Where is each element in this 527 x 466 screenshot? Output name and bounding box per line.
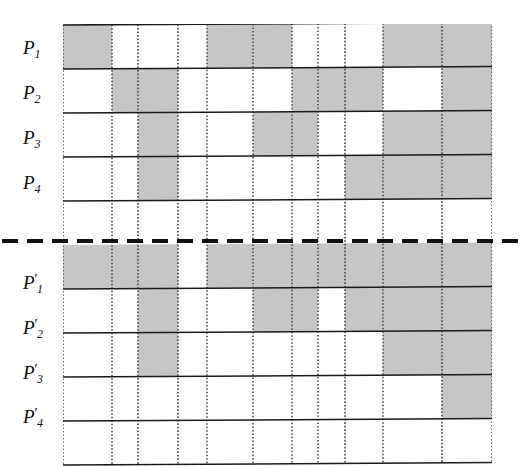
- grid-cell-shaded-r2-c3: [138, 68, 178, 112]
- grid-cell-shaded-r2-c9: [345, 67, 383, 111]
- row-label-p3-prime: P′3: [23, 362, 43, 385]
- group-divider-dashed-line: [0, 236, 527, 246]
- grid-cell-shaded-r6-c7: [292, 244, 318, 288]
- row-label-p2-prime: P′2: [23, 317, 43, 340]
- grid-cell-shaded-r1-c10: [383, 24, 442, 67]
- row-label-p3-subscript: 3: [35, 137, 41, 151]
- row-label-p4-base: P: [23, 172, 35, 193]
- row-label-p4-prime: P′4: [23, 406, 43, 429]
- grid-cell-shaded-r1-c5: [207, 24, 253, 68]
- grid-cell-shaded-r9-c11: [442, 375, 492, 419]
- grid-cell-shaded-r7-c7: [292, 288, 318, 332]
- grid-cell-shaded-r2-c8: [318, 67, 345, 111]
- grid-cell-shaded-r6-c5: [207, 244, 253, 288]
- grid-cell-shaded-r1-c6: [253, 24, 292, 68]
- row-label-p2-prime-base: P: [23, 317, 35, 338]
- row-label-p3: P3: [23, 128, 41, 150]
- grid-cell-shaded-r3-c7: [292, 112, 318, 156]
- grid-cell-shaded-r6-c9: [345, 243, 383, 287]
- row-label-p3-prime-base: P: [23, 362, 35, 383]
- row-label-p1-prime: P′1: [23, 272, 43, 295]
- grid-cell-shaded-r7-c10: [383, 287, 442, 331]
- grid-cell-shaded-r6-c3: [138, 244, 178, 288]
- grid-cell-shaded-r7-c11: [442, 287, 492, 331]
- row-label-p1-base: P: [23, 37, 35, 58]
- row-label-p1: P1: [23, 38, 41, 60]
- grid-row-rule-8: [63, 375, 492, 378]
- grid-row-rule-9: [63, 419, 492, 422]
- row-label-p2-prime-subscript: 2: [37, 327, 43, 341]
- grid-cell-shaded-r3-c3: [138, 112, 178, 156]
- grid-cell-shaded-r6-c1: [63, 245, 112, 289]
- row-label-p2: P2: [23, 83, 41, 105]
- grid-cell-shaded-r1-c1: [63, 25, 112, 69]
- grid-cell-shaded-r7-c6: [253, 288, 292, 332]
- grid-cell-shaded-r6-c2: [112, 245, 138, 289]
- grid-cell-shaded-r4-c9: [345, 155, 383, 199]
- grid-cell-shaded-r6-c6: [253, 244, 292, 288]
- row-label-p2-base: P: [23, 82, 35, 103]
- grid-cell-shaded-r3-c6: [253, 112, 292, 156]
- grid-row-rule-4: [63, 199, 492, 202]
- grid-cell-shaded-r3-c11: [442, 111, 492, 155]
- grid-cell-shaded-r2-c2: [112, 69, 138, 113]
- row-label-p3-base: P: [23, 127, 35, 148]
- row-label-p4-prime-base: P: [23, 406, 35, 427]
- grid-cell-shaded-r7-c9: [345, 287, 383, 331]
- grid-cell-shaded-r2-c7: [292, 68, 318, 112]
- row-label-p4-subscript: 4: [35, 182, 41, 196]
- grid-cell-shaded-r6-c11: [442, 243, 492, 287]
- grid-cell-shaded-r8-c3: [138, 332, 178, 376]
- row-label-p1-prime-subscript: 1: [37, 282, 43, 296]
- row-label-p4-prime-subscript: 4: [37, 416, 43, 430]
- grid-cell-shaded-r4-c10: [383, 155, 442, 199]
- grid-row-rule-10: [63, 463, 492, 466]
- row-label-p1-prime-base: P: [23, 272, 35, 293]
- row-label-p3-prime-subscript: 3: [37, 372, 43, 386]
- grid-cell-shaded-r7-c3: [138, 288, 178, 332]
- grid-cell-shaded-r6-c10: [383, 243, 442, 287]
- row-label-p4: P4: [23, 173, 41, 195]
- grid-cell-shaded-r4-c11: [442, 155, 492, 199]
- grid-cell-shaded-r8-c11: [442, 331, 492, 375]
- grid-cell-shaded-r6-c8: [318, 243, 345, 287]
- grid-cell-shaded-r8-c10: [383, 331, 442, 375]
- row-label-p2-subscript: 2: [35, 92, 41, 106]
- grid-cell-shaded-r1-c11: [442, 24, 492, 67]
- grid-cell-shaded-r2-c11: [442, 67, 492, 111]
- grid-cell-shaded-r4-c3: [138, 156, 178, 200]
- row-label-p1-subscript: 1: [35, 47, 41, 61]
- grid-cell-shaded-r3-c10: [383, 111, 442, 155]
